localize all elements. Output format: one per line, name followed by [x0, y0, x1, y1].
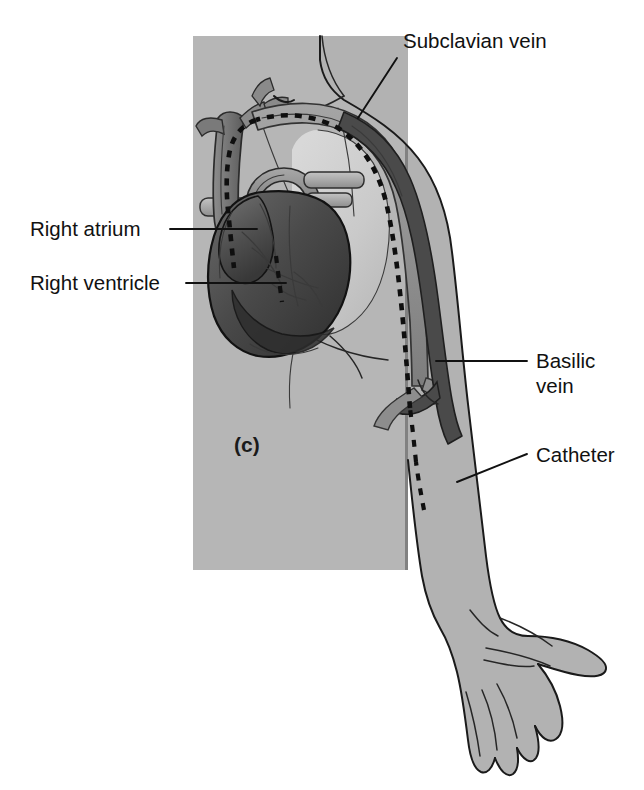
label-subclavian-vein: Subclavian vein: [403, 29, 547, 52]
part-letter: (c): [234, 433, 260, 456]
label-right-ventricle: Right ventricle: [30, 271, 160, 294]
picc-line-anatomy-figure: (c) Subclavian vein Right atrium Right v…: [0, 0, 644, 790]
label-basilic-vein-line2: vein: [536, 374, 574, 397]
anatomy-illustration: (c) Subclavian vein Right atrium Right v…: [0, 0, 644, 790]
label-basilic-vein: Basilic: [536, 349, 595, 372]
label-right-atrium: Right atrium: [30, 217, 141, 240]
label-catheter: Catheter: [536, 443, 615, 466]
